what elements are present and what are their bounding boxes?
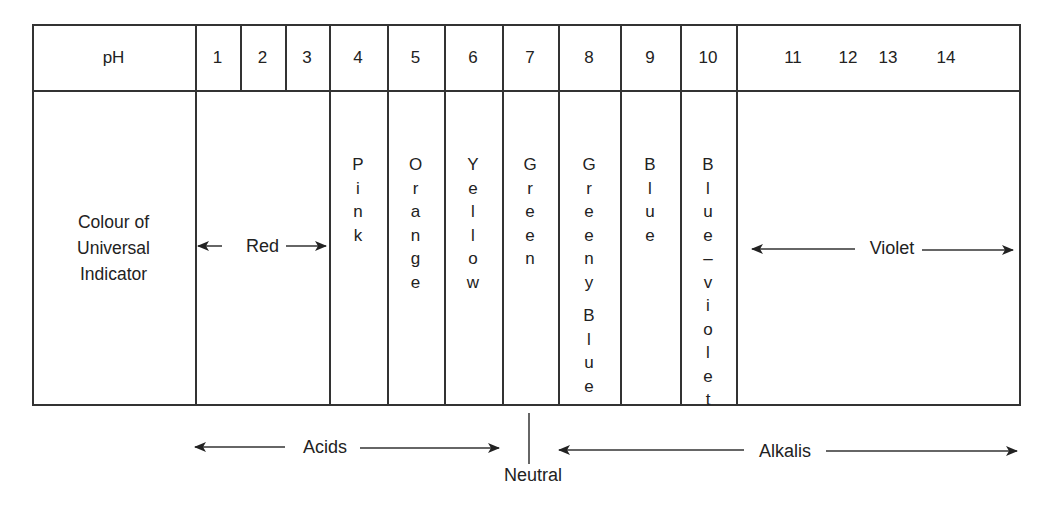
arrows-layer xyxy=(0,0,1059,512)
alkalis-label: Alkalis xyxy=(746,441,824,461)
acids-label: Acids xyxy=(290,437,360,457)
neutral-label: Neutral xyxy=(493,465,573,485)
violet-double-arrow-icon xyxy=(752,249,1013,250)
